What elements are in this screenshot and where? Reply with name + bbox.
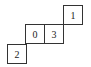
cell-label: 2 — [15, 49, 20, 60]
cell-label: 3 — [52, 29, 57, 40]
cell-2: 2 — [7, 44, 27, 64]
cell-1: 1 — [63, 5, 83, 25]
cell-label: 1 — [71, 10, 76, 21]
cell-3: 3 — [44, 24, 64, 44]
cell-0: 0 — [25, 24, 45, 44]
cell-label: 0 — [33, 29, 38, 40]
